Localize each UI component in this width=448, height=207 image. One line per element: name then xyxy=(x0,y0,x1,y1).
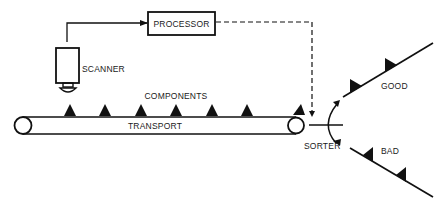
belt-components xyxy=(64,104,305,116)
scanner-label: SCANNER xyxy=(82,64,125,74)
good-component-triangle-icon xyxy=(350,79,362,93)
component-triangle-icon xyxy=(206,104,218,116)
component-triangle-tilted-icon xyxy=(293,104,305,115)
scanner-camera-body xyxy=(56,48,79,83)
processor-to-sorter-dashed-arrow xyxy=(216,22,312,116)
diagram-svg: PROCESSOR SCANNER COMPONENTS TRANSPORT xyxy=(0,0,448,207)
bad-label: BAD xyxy=(381,146,399,156)
sorter-swing-arc xyxy=(328,104,337,143)
scanner-to-processor-arrow xyxy=(67,23,147,42)
sorter-node: SORTER xyxy=(304,100,343,151)
processor-label: PROCESSOR xyxy=(153,19,209,29)
component-triangle-icon xyxy=(64,104,76,116)
good-label: GOOD xyxy=(381,81,408,91)
bad-component-triangle-icon xyxy=(363,147,373,162)
left-roller-icon xyxy=(15,117,32,134)
component-triangle-icon xyxy=(135,104,147,116)
processor-node: PROCESSOR xyxy=(148,12,215,35)
transport-label: TRANSPORT xyxy=(128,121,182,131)
bad-chute: BAD xyxy=(350,146,433,197)
component-triangle-icon xyxy=(99,104,111,116)
sorter-label: SORTER xyxy=(304,141,340,151)
right-roller-icon xyxy=(288,118,304,134)
sorter-arrow-up-icon xyxy=(333,100,340,107)
component-triangle-icon xyxy=(170,104,182,116)
bad-component-triangle-icon xyxy=(396,167,406,182)
good-chute: GOOD xyxy=(343,43,433,97)
good-component-triangle-icon xyxy=(385,58,397,72)
inspection-sorting-diagram: PROCESSOR SCANNER COMPONENTS TRANSPORT xyxy=(0,0,448,207)
scanner-lens-neck xyxy=(63,83,73,87)
components-label: COMPONENTS xyxy=(145,91,208,101)
component-triangle-icon xyxy=(241,104,253,116)
scanner-lens-icon xyxy=(60,88,76,92)
scanner-node: SCANNER xyxy=(56,48,125,92)
transport-conveyor: TRANSPORT xyxy=(15,117,305,134)
